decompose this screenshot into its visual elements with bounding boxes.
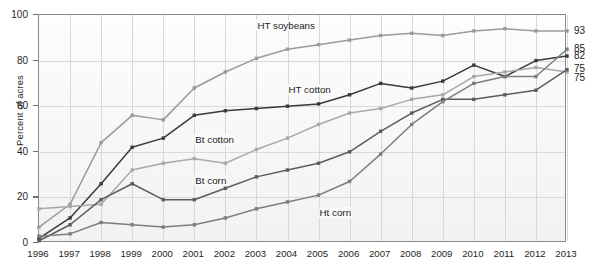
series-ht-corn xyxy=(37,48,568,238)
y-tick-label: 0 xyxy=(22,237,28,248)
data-point-marker xyxy=(317,193,320,196)
data-point-marker xyxy=(379,130,382,133)
x-tick-label: 2006 xyxy=(338,248,359,259)
data-point-marker xyxy=(37,234,40,237)
chart-container: Percent of acres 020406080100 1996199719… xyxy=(0,0,598,273)
data-point-marker xyxy=(255,175,258,178)
y-tick-label: 20 xyxy=(17,191,28,202)
plot-inner: HT soybeansHT cottonBt cottonBt cornHt c… xyxy=(39,15,565,241)
x-tick-label: 2008 xyxy=(400,248,421,259)
y-tick-label: 80 xyxy=(17,54,28,65)
x-tick-label: 2001 xyxy=(183,248,204,259)
data-point-marker xyxy=(99,141,102,144)
data-point-marker xyxy=(162,118,165,121)
y-tick-label: 40 xyxy=(17,145,28,156)
data-point-marker xyxy=(472,29,475,32)
data-point-marker xyxy=(348,150,351,153)
data-point-marker xyxy=(410,32,413,35)
data-point-marker xyxy=(99,203,102,206)
data-point-marker xyxy=(348,180,351,183)
data-point-marker xyxy=(348,93,351,96)
data-point-marker xyxy=(379,107,382,110)
x-tick-label: 1997 xyxy=(58,248,79,259)
data-point-marker xyxy=(503,70,506,73)
data-point-marker xyxy=(255,207,258,210)
series-line xyxy=(39,70,567,241)
data-point-marker xyxy=(472,63,475,66)
data-point-marker xyxy=(441,79,444,82)
data-point-marker xyxy=(255,148,258,151)
data-point-marker xyxy=(286,105,289,108)
data-point-marker xyxy=(68,223,71,226)
x-tick-label: 2003 xyxy=(245,248,266,259)
x-tick-label: 2009 xyxy=(431,248,452,259)
data-point-marker xyxy=(68,216,71,219)
data-point-marker xyxy=(472,75,475,78)
data-point-marker xyxy=(162,225,165,228)
data-point-marker xyxy=(565,54,568,57)
data-point-marker xyxy=(503,27,506,30)
series-layer xyxy=(39,15,567,243)
x-tick-label: 2011 xyxy=(494,248,515,259)
x-tick-label: 2013 xyxy=(555,248,576,259)
data-point-marker xyxy=(441,93,444,96)
data-point-marker xyxy=(99,182,102,185)
data-point-marker xyxy=(410,111,413,114)
data-point-marker xyxy=(534,66,537,69)
plot-area: HT soybeansHT cottonBt cottonBt cornHt c… xyxy=(38,14,566,242)
data-point-marker xyxy=(534,89,537,92)
x-tick-label: 2010 xyxy=(462,248,483,259)
data-point-marker xyxy=(410,98,413,101)
data-point-marker xyxy=(317,102,320,105)
data-point-marker xyxy=(503,75,506,78)
data-point-marker xyxy=(37,207,40,210)
data-point-marker xyxy=(379,34,382,37)
x-tick-label: 2000 xyxy=(152,248,173,259)
data-point-marker xyxy=(317,43,320,46)
data-point-marker xyxy=(162,136,165,139)
data-point-marker xyxy=(317,162,320,165)
data-point-marker xyxy=(224,187,227,190)
x-tick-label: 2005 xyxy=(307,248,328,259)
series-label-bt-cotton: Bt cotton xyxy=(194,134,235,145)
data-point-marker xyxy=(193,86,196,89)
data-point-marker xyxy=(441,34,444,37)
data-point-marker xyxy=(224,162,227,165)
data-point-marker xyxy=(441,100,444,103)
data-point-marker xyxy=(37,239,40,242)
y-tick-mark xyxy=(33,242,38,243)
data-point-marker xyxy=(255,57,258,60)
data-point-marker xyxy=(472,82,475,85)
end-value-label: 75 xyxy=(574,71,585,82)
data-point-marker xyxy=(348,111,351,114)
data-point-marker xyxy=(37,225,40,228)
data-point-marker xyxy=(162,162,165,165)
end-value-label: 93 xyxy=(574,24,585,35)
data-point-marker xyxy=(534,29,537,32)
data-point-marker xyxy=(379,82,382,85)
data-point-marker xyxy=(503,93,506,96)
data-point-marker xyxy=(224,216,227,219)
data-point-marker xyxy=(193,198,196,201)
data-point-marker xyxy=(130,168,133,171)
y-tick-label: 100 xyxy=(11,9,28,20)
data-point-marker xyxy=(565,48,568,51)
data-point-marker xyxy=(130,223,133,226)
series-label-bt-corn: Bt corn xyxy=(194,175,227,186)
data-point-marker xyxy=(286,136,289,139)
x-tick-label: 1999 xyxy=(121,248,142,259)
data-point-marker xyxy=(68,205,71,208)
data-point-marker xyxy=(224,70,227,73)
data-point-marker xyxy=(348,38,351,41)
data-point-marker xyxy=(130,146,133,149)
series-line xyxy=(39,29,567,227)
data-point-marker xyxy=(379,152,382,155)
data-point-marker xyxy=(565,29,568,32)
series-line xyxy=(39,49,567,236)
data-point-marker xyxy=(99,198,102,201)
data-point-marker xyxy=(162,198,165,201)
data-point-marker xyxy=(286,200,289,203)
data-point-marker xyxy=(193,114,196,117)
y-tick-label: 60 xyxy=(17,100,28,111)
x-tick-label: 1998 xyxy=(89,248,110,259)
